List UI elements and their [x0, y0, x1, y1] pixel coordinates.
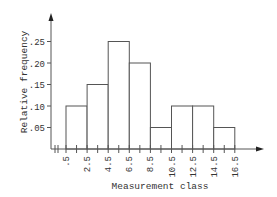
- histogram-chart: .05.10.15.20.25 .52.54.56.58.510.512.514…: [0, 0, 277, 197]
- bars-group: [66, 42, 235, 150]
- x-axis-arrow-icon: [256, 147, 264, 152]
- y-tick-label: .15: [29, 81, 45, 91]
- y-axis-arrow-icon: [49, 13, 54, 21]
- x-ticks-group: .52.54.56.58.510.512.514.516.5: [62, 145, 241, 178]
- histogram-bar: [172, 106, 193, 149]
- y-ticks-group: .05.10.15.20.25: [29, 38, 51, 134]
- y-axis-label: Relative frequency: [19, 30, 30, 133]
- y-tick-label: .10: [29, 103, 45, 113]
- y-tick-label: .25: [29, 38, 45, 48]
- x-tick-label: 6.5: [125, 156, 135, 172]
- x-axis-label: Measurement class: [112, 181, 209, 192]
- histogram-bar: [108, 42, 129, 150]
- x-tick-label: 16.5: [231, 156, 241, 178]
- chart-canvas: .05.10.15.20.25 .52.54.56.58.510.512.514…: [0, 0, 277, 197]
- histogram-bar: [66, 106, 87, 149]
- x-tick-label: 10.5: [168, 156, 178, 178]
- y-tick-label: .20: [29, 60, 45, 70]
- histogram-bar: [87, 85, 108, 150]
- histogram-bar: [193, 106, 214, 149]
- y-tick-label: .05: [29, 124, 45, 134]
- x-tick-label: 8.5: [146, 156, 156, 172]
- x-tick-label: 4.5: [104, 156, 114, 172]
- x-tick-label: 12.5: [189, 156, 199, 178]
- x-tick-label: 14.5: [210, 156, 220, 178]
- histogram-bar: [129, 63, 150, 149]
- x-tick-label: .5: [62, 156, 72, 167]
- x-tick-label: 2.5: [83, 156, 93, 172]
